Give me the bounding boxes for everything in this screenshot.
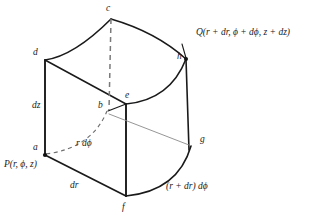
cylindrical-volume-element-figure: c d h b e a g f P(r, ϕ, z) Q(r + dr, ϕ +… <box>0 0 322 224</box>
point-p-label: P(r, ϕ, z) <box>4 160 37 170</box>
vertex-label-f: f <box>122 203 125 213</box>
vertex-label-d: d <box>33 48 38 58</box>
vertex-label-c: c <box>106 4 110 14</box>
edge-c-h-arc <box>111 19 186 59</box>
vertex-label-e: e <box>125 91 129 101</box>
edge-b-g-hidden <box>109 114 189 145</box>
edge-d-e <box>45 60 126 104</box>
edge-e-h-arc <box>126 59 186 104</box>
arc-label-r-plus-dr-dphi: (r + dr) dϕ <box>166 182 208 192</box>
edge-a-f-dr <box>45 155 126 196</box>
vertex-label-a: a <box>33 143 38 153</box>
point-q-label: Q(r + dr, ϕ + dϕ, z + dz) <box>196 28 290 38</box>
vertex-label-g: g <box>200 135 205 145</box>
vertex-label-b: b <box>98 101 103 111</box>
vertex-dot-a <box>43 153 47 157</box>
edge-label-dr: dr <box>70 181 78 191</box>
vertex-label-h: h <box>177 52 182 62</box>
edge-b-e <box>108 104 126 111</box>
arc-label-r-dphi: r dϕ <box>76 139 92 149</box>
edge-d-c-arc <box>45 19 111 60</box>
edge-label-dz: dz <box>32 101 40 111</box>
edge-h-g-vertical <box>186 59 189 150</box>
